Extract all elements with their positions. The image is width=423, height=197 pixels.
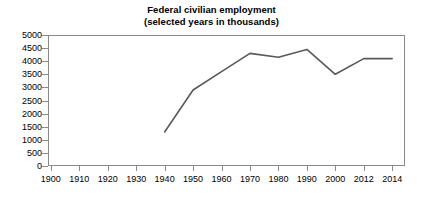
series-plot: [48, 35, 405, 166]
x-tick-mark: [165, 166, 166, 171]
x-tick-mark: [108, 166, 109, 171]
y-tick-label: 3000: [0, 83, 42, 92]
x-tick-mark: [392, 166, 393, 171]
x-tick-mark: [335, 166, 336, 171]
y-tick-label: 1500: [0, 122, 42, 131]
x-tick-mark: [193, 166, 194, 171]
y-tick-label: 4500: [0, 44, 42, 53]
y-tick-label: 5000: [0, 31, 42, 40]
y-tick-label: 4000: [0, 57, 42, 66]
y-axis-labels: 0500100015002000250030003500400045005000: [0, 35, 42, 166]
x-tick-mark: [307, 166, 308, 171]
x-tick-label: 2014: [372, 174, 412, 185]
y-tick-label: 2000: [0, 109, 42, 118]
chart-title: Federal civilian employment (selected ye…: [0, 4, 423, 28]
x-tick-mark: [278, 166, 279, 171]
x-tick-mark: [222, 166, 223, 171]
x-axis-ticks: [48, 166, 405, 171]
y-tick-label: 1000: [0, 135, 42, 144]
y-tick-label: 500: [0, 148, 42, 157]
y-tick-label: 3500: [0, 70, 42, 79]
x-tick-mark: [79, 166, 80, 171]
x-tick-mark: [250, 166, 251, 171]
y-tick-label: 0: [0, 162, 42, 171]
x-tick-mark: [51, 166, 52, 171]
y-tick-label: 2500: [0, 96, 42, 105]
chart-title-main: Federal civilian employment: [147, 4, 276, 15]
x-axis-labels: 1900191019201930194019501960197019801990…: [0, 174, 423, 188]
series-line-federal-civilian-employment: [165, 49, 393, 132]
chart-subtitle: (selected years in thousands): [0, 16, 423, 28]
chart-container: Federal civilian employment (selected ye…: [0, 0, 423, 197]
x-tick-mark: [364, 166, 365, 171]
x-tick-mark: [136, 166, 137, 171]
